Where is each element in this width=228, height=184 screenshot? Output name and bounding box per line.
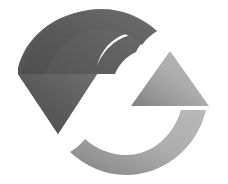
icon-canvas: Refresh / synchronize circular arrows ic… — [0, 0, 228, 184]
refresh-sync-icon: Refresh / synchronize circular arrows ic… — [0, 0, 228, 184]
